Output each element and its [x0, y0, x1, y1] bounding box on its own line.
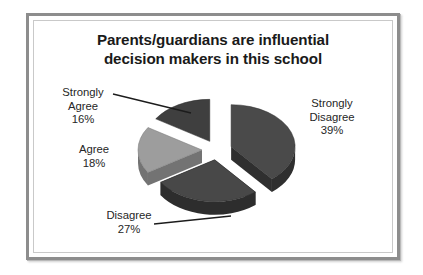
- data-label-disagree-line-1: Disagree: [86, 209, 172, 223]
- data-label-strongly-agree-percent: 16%: [46, 113, 120, 127]
- data-label-agree-percent: 18%: [58, 157, 130, 171]
- data-label-strongly-agree-line-2: Agree: [46, 100, 120, 114]
- data-label-agree-line-1: Agree: [58, 143, 130, 157]
- data-label-disagree: Disagree 27%: [86, 209, 172, 236]
- data-label-strongly-agree: Strongly Agree 16%: [46, 86, 120, 127]
- data-label-strongly-disagree: Strongly Disagree 39%: [284, 97, 380, 138]
- data-label-strongly-disagree-line-1: Strongly: [284, 97, 380, 111]
- data-label-strongly-disagree-percent: 39%: [284, 124, 380, 138]
- data-label-disagree-percent: 27%: [86, 223, 172, 237]
- pie-chart: Parents/guardians are influential decisi…: [26, 13, 400, 260]
- data-label-strongly-agree-line-1: Strongly: [46, 86, 120, 100]
- data-label-agree: Agree 18%: [58, 143, 130, 170]
- data-label-strongly-disagree-line-2: Disagree: [284, 111, 380, 125]
- leader-line-strongly-agree: [113, 94, 191, 113]
